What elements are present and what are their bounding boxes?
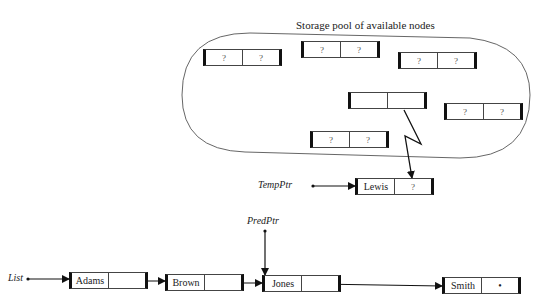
pool-node: ? ? [398,52,477,69]
node-link-cell: ? [243,50,279,65]
node-link-cell: ? [484,104,520,119]
node-data-cell: ? [206,50,243,65]
node-data-cell: ? [401,53,438,68]
node-data-cell: Adams [72,273,109,288]
pool-node: ? ? [203,49,282,66]
node-link-cell [302,276,338,291]
node-data-cell: ? [313,132,350,147]
pool-node: ? ? [444,103,523,120]
list-node-smith: Smith • [442,277,521,294]
node-link-cell [109,273,145,288]
tempptr-label: TempPtr [258,179,292,190]
node-data-cell: Lewis [358,179,395,194]
storage-pool-title: Storage pool of available nodes [296,19,435,31]
pool-node: ? ? [301,41,380,58]
node-link-cell [388,93,424,108]
node-data-cell: ? [447,104,484,119]
list-node-adams: Adams [69,272,148,289]
node-data-cell: Smith [445,278,482,293]
node-link-cell: ? [341,42,377,57]
list-node-brown: Brown [165,274,244,291]
node-link-cell: • [482,278,518,293]
node-link-cell [205,275,241,290]
diagram-lines [0,0,543,308]
list-pointer-label: List [8,272,23,283]
node-data-cell [351,93,388,108]
pool-node: ? ? [310,131,389,148]
node-data-cell: Brown [168,275,205,290]
pool-node-allocated [348,92,427,109]
node-data-cell: ? [304,42,341,57]
list-node-jones: Jones [262,275,341,292]
node-data-cell: Jones [265,276,302,291]
node-link-cell: ? [438,53,474,68]
node-link-cell: ? [395,179,431,194]
allocation-zigzag [404,110,421,178]
new-node-lewis: Lewis ? [355,178,434,195]
predptr-label: PredPtr [247,215,279,226]
node-link-cell: ? [350,132,386,147]
